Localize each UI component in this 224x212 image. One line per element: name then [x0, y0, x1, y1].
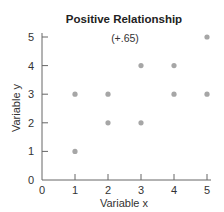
data-point [138, 120, 143, 125]
y-ticks: 012345 [28, 31, 48, 186]
scatter-chart: Positive Relationship (+.65) 012345 0123… [0, 0, 224, 212]
data-points [72, 34, 209, 154]
y-tick-label: 3 [28, 88, 34, 100]
correlation-annotation: (+.65) [111, 32, 139, 44]
chart-title: Positive Relationship [66, 13, 182, 25]
data-point [171, 92, 176, 97]
x-tick-label: 3 [138, 184, 144, 196]
y-tick-label: 4 [28, 60, 34, 72]
x-tick-label: 1 [72, 184, 78, 196]
y-tick-label: 2 [28, 117, 34, 129]
x-axis-label: Variable x [100, 197, 149, 209]
x-tick-label: 4 [171, 184, 177, 196]
data-point [72, 92, 77, 97]
y-tick-label: 5 [28, 31, 34, 43]
y-axis-label: Variable y [10, 83, 22, 132]
x-tick-label: 2 [105, 184, 111, 196]
data-point [171, 63, 176, 68]
data-point [105, 92, 110, 97]
x-tick-label: 0 [39, 184, 45, 196]
x-ticks: 012345 [39, 174, 210, 196]
data-point [138, 63, 143, 68]
data-point [204, 34, 209, 39]
data-point [105, 120, 110, 125]
data-point [204, 92, 209, 97]
x-tick-label: 5 [204, 184, 210, 196]
data-point [72, 149, 77, 154]
y-tick-label: 0 [28, 174, 34, 186]
y-tick-label: 1 [28, 145, 34, 157]
